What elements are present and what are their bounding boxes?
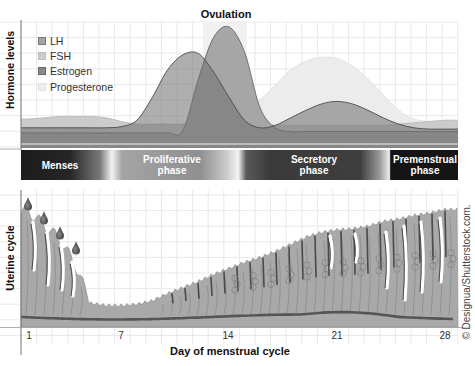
ovulation-label: Ovulation bbox=[201, 8, 252, 20]
blood-drop-icon bbox=[72, 241, 80, 255]
blood-drop-icon bbox=[40, 211, 48, 225]
phase-secretory: Secretory phase bbox=[291, 154, 337, 176]
menstrual-cycle-diagram: Ovulation Hormone levels Uterine cycle L… bbox=[0, 0, 475, 366]
legend-item-estrogen: Estrogen bbox=[38, 65, 92, 77]
uterine-cycle-axis-label: Uterine cycle bbox=[4, 225, 16, 290]
x-tick-21: 21 bbox=[331, 330, 342, 341]
blood-drop-icon bbox=[24, 197, 32, 211]
legend-label: LH bbox=[50, 35, 63, 47]
x-axis-label: Day of menstrual cycle bbox=[170, 345, 290, 357]
estrogen-swatch-icon bbox=[38, 67, 46, 75]
legend-item-lh: LH bbox=[38, 35, 63, 47]
phase-menses: Menses bbox=[42, 160, 79, 171]
progesterone-swatch-icon bbox=[38, 83, 46, 91]
x-tick-28: 28 bbox=[439, 330, 450, 341]
x-tick-7: 7 bbox=[118, 330, 124, 341]
lh-swatch-icon bbox=[38, 37, 46, 45]
legend-label: Progesterone bbox=[50, 81, 113, 93]
x-tick-1: 1 bbox=[26, 330, 32, 341]
x-tick-14: 14 bbox=[222, 330, 233, 341]
legend-label: Estrogen bbox=[50, 65, 92, 77]
legend-label: FSH bbox=[50, 50, 71, 62]
hormone-levels-axis-label: Hormone levels bbox=[4, 31, 16, 109]
legend-item-progesterone: Progesterone bbox=[38, 81, 113, 93]
phase-proliferative: Proliferative phase bbox=[143, 154, 201, 176]
legend-item-fsh: FSH bbox=[38, 50, 71, 62]
diagram-graphics bbox=[0, 0, 475, 366]
image-credit: © Designua/Shutterstock.com. bbox=[461, 204, 472, 339]
fsh-swatch-icon bbox=[38, 52, 46, 60]
phase-premenstrual: Premenstrual phase bbox=[393, 154, 457, 176]
blood-drop-icon bbox=[56, 226, 64, 240]
